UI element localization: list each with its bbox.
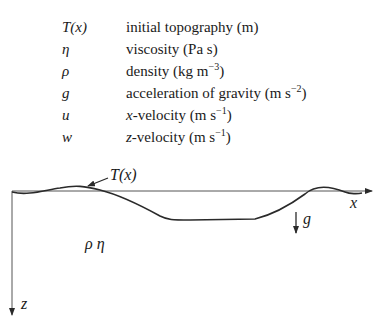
x-axis-label: x	[350, 195, 357, 211]
topography-pointer-arrow	[88, 178, 108, 186]
gravity-label: g	[303, 211, 311, 227]
topography-label: T(x)	[110, 167, 137, 183]
topography-diagram	[0, 0, 384, 318]
material-properties-label: ρ η	[85, 236, 105, 252]
z-axis-label: z	[21, 296, 27, 312]
